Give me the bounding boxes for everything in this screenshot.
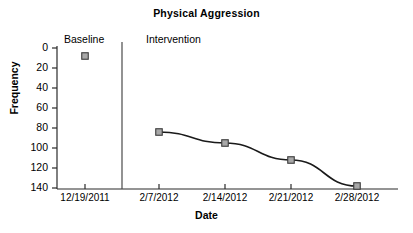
series-line — [159, 132, 357, 186]
y-tick-label: 80 — [14, 122, 48, 133]
data-point-marker — [156, 129, 163, 136]
y-tick-label: 0 — [14, 42, 48, 53]
data-point-marker — [288, 157, 295, 164]
data-series-layer — [82, 53, 361, 190]
y-tick-marks — [52, 48, 57, 188]
x-tick-label: 2/28/2012 — [312, 192, 402, 203]
axes — [57, 46, 398, 189]
y-tick-label: 120 — [14, 162, 48, 173]
chart-container: Physical Aggression Frequency Date Basel… — [0, 0, 413, 233]
y-tick-label: 60 — [14, 102, 48, 113]
x-tick-marks — [85, 184, 357, 189]
data-point-marker — [82, 53, 89, 60]
y-tick-label: 40 — [14, 82, 48, 93]
data-point-marker — [222, 140, 229, 147]
y-tick-label: 20 — [14, 62, 48, 73]
data-point-marker — [354, 183, 361, 190]
y-tick-label: 100 — [14, 142, 48, 153]
